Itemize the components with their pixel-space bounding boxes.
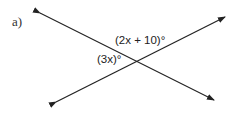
angle-label-top: (2x + 10)° xyxy=(115,34,165,46)
line-2 xyxy=(56,17,225,102)
line-1 xyxy=(40,13,214,100)
angle-label-left: (3x)° xyxy=(97,53,121,65)
